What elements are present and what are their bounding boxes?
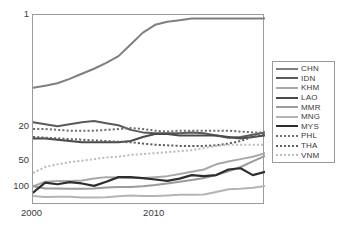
legend-swatch-tha-icon	[276, 141, 298, 150]
legend-label: VNM	[301, 151, 319, 160]
legend-label: THA	[301, 141, 318, 150]
legend-label: PHL	[301, 131, 317, 140]
y-tick-label: 1	[3, 9, 29, 19]
legend-item-mmr[interactable]: MMR	[276, 102, 331, 112]
legend-item-chn[interactable]: CHN	[276, 64, 331, 74]
y-tick-label: 20	[3, 121, 29, 131]
legend-swatch-idn-icon	[276, 74, 298, 83]
legend-swatch-phl-icon	[276, 131, 298, 140]
legend-swatch-khm-icon	[276, 83, 298, 92]
x-tick-label: 2000	[21, 208, 42, 218]
legend-item-mng[interactable]: MNG	[276, 112, 331, 122]
series-line-phl	[33, 128, 265, 132]
legend-item-lao[interactable]: LAO	[276, 93, 331, 103]
legend-item-khm[interactable]: KHM	[276, 83, 331, 93]
legend-swatch-mys-icon	[276, 122, 298, 131]
legend-swatch-chn-icon	[276, 64, 298, 73]
series-canvas	[33, 15, 265, 205]
legend-label: MMR	[301, 103, 321, 112]
legend-swatch-lao-icon	[276, 93, 298, 102]
y-tick-label: 50	[3, 155, 29, 165]
legend-item-vnm[interactable]: VNM	[276, 150, 331, 160]
legend-swatch-mng-icon	[276, 112, 298, 121]
x-tick-label: 2010	[143, 208, 164, 218]
legend-item-mys[interactable]: MYS	[276, 122, 331, 132]
y-tick-label: 100	[3, 181, 29, 191]
legend-label: IDN	[301, 74, 315, 83]
legend-item-tha[interactable]: THA	[276, 141, 331, 151]
legend-item-phl[interactable]: PHL	[276, 131, 331, 141]
legend-box: CHNIDNKHMLAOMMRMNGMYSPHLTHAVNM	[272, 61, 335, 163]
legend-swatch-mmr-icon	[276, 103, 298, 112]
legend-label: MYS	[301, 122, 319, 131]
legend-label: KHM	[301, 83, 319, 92]
plot-area	[32, 14, 264, 204]
legend-item-idn[interactable]: IDN	[276, 74, 331, 84]
legend-swatch-vnm-icon	[276, 151, 298, 160]
legend-label: CHN	[301, 64, 319, 73]
chart-figure: 12050100 20002010 CHNIDNKHMLAOMMRMNGMYSP…	[0, 0, 339, 235]
legend-label: MNG	[301, 112, 320, 121]
series-line-chn	[33, 19, 265, 88]
series-line-mng	[33, 186, 265, 198]
y-axis-labels: 12050100	[0, 0, 29, 235]
legend-label: LAO	[301, 93, 318, 102]
